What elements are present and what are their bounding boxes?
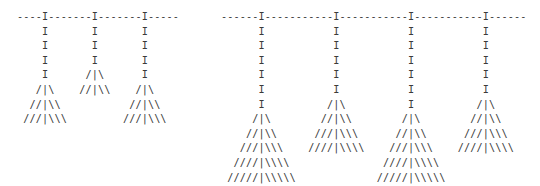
ascii-art-left-rail: ----I-------I-------I----- I I I I I I I…: [17, 10, 179, 127]
ascii-art-right-rail: ------I-----------I-----------I---------…: [221, 10, 526, 185]
